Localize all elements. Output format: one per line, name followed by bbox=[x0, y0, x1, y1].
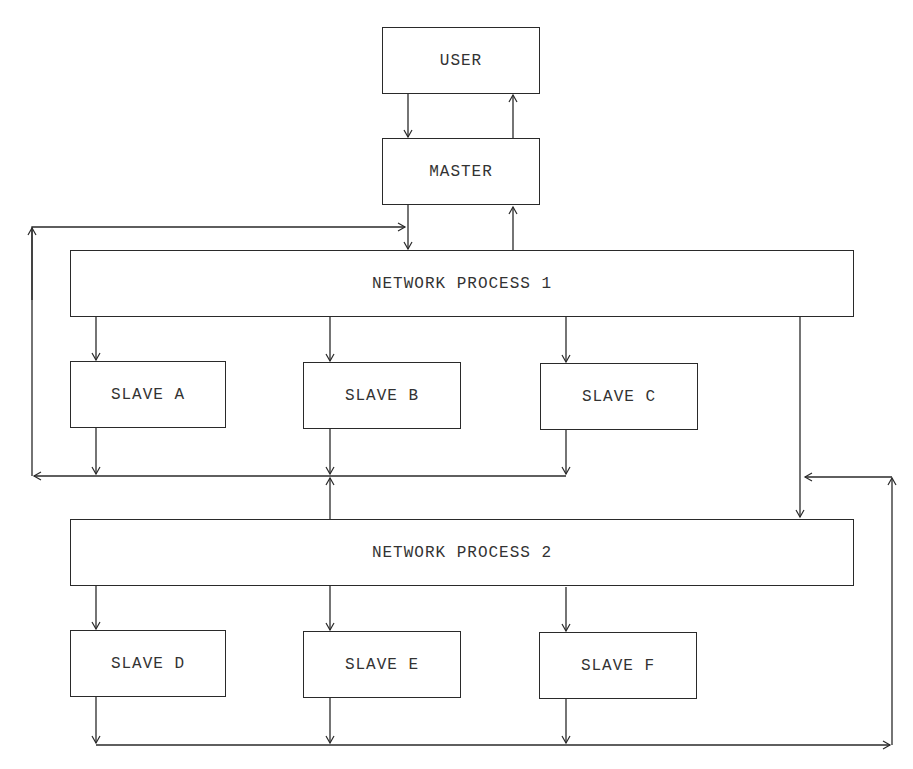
slave-e-label: SLAVE E bbox=[345, 656, 419, 674]
slave-c-label: SLAVE C bbox=[582, 388, 656, 406]
user-label: USER bbox=[440, 52, 482, 70]
slave-c-box: SLAVE C bbox=[540, 363, 698, 430]
slave-b-box: SLAVE B bbox=[303, 362, 461, 429]
network-process-1-box: NETWORK PROCESS 1 bbox=[70, 250, 854, 317]
slave-a-label: SLAVE A bbox=[111, 386, 185, 404]
slave-e-box: SLAVE E bbox=[303, 631, 461, 698]
slave-d-label: SLAVE D bbox=[111, 655, 185, 673]
network-process-2-label: NETWORK PROCESS 2 bbox=[372, 544, 552, 562]
slave-a-box: SLAVE A bbox=[70, 361, 226, 428]
slave-f-box: SLAVE F bbox=[539, 632, 697, 699]
user-box: USER bbox=[382, 27, 540, 94]
diagram-canvas: USER MASTER NETWORK PROCESS 1 SLAVE A SL… bbox=[0, 0, 913, 769]
master-box: MASTER bbox=[382, 138, 540, 205]
slave-f-label: SLAVE F bbox=[581, 657, 655, 675]
master-label: MASTER bbox=[429, 163, 493, 181]
slave-d-box: SLAVE D bbox=[70, 630, 226, 697]
network-process-2-box: NETWORK PROCESS 2 bbox=[70, 519, 854, 586]
network-process-1-label: NETWORK PROCESS 1 bbox=[372, 275, 552, 293]
slave-b-label: SLAVE B bbox=[345, 387, 419, 405]
